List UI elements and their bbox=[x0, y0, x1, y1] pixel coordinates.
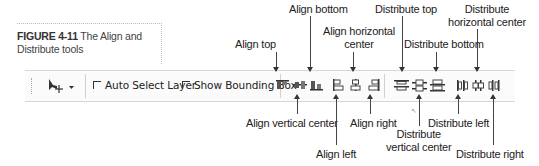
callout-line bbox=[493, 98, 494, 145]
arrow-down-icon bbox=[307, 67, 313, 72]
options-toolbar: Auto Select Layer Show Bounding Box bbox=[25, 70, 515, 102]
align-top-icon[interactable] bbox=[275, 78, 291, 92]
callout-line bbox=[477, 29, 478, 69]
callout-align-horizontal-center: Align horizontal center bbox=[323, 25, 395, 51]
figure-caption: FIGURE 4-11 The Align and Distribute too… bbox=[17, 30, 161, 56]
distribute-vertical-center-icon[interactable] bbox=[411, 78, 428, 92]
distribute-right-icon[interactable] bbox=[487, 78, 501, 92]
move-tool-button[interactable] bbox=[41, 77, 77, 95]
align-bottom-icon[interactable] bbox=[309, 78, 325, 92]
callout-line bbox=[336, 98, 337, 145]
callout-line bbox=[458, 98, 459, 114]
arrow-down-icon bbox=[350, 67, 356, 72]
distribute-top-icon[interactable] bbox=[393, 78, 410, 92]
callout-distribute-bottom: Distribute bottom bbox=[404, 38, 484, 51]
auto-select-layer-checkbox[interactable]: Auto Select Layer bbox=[93, 79, 196, 91]
cursor-icon: ↖ bbox=[411, 107, 417, 115]
chevron-down-icon bbox=[69, 86, 74, 89]
checkbox-box[interactable] bbox=[182, 81, 190, 89]
callout-align-bottom: Align bottom bbox=[289, 3, 348, 16]
callout-line bbox=[370, 98, 371, 114]
figure-caption-box: FIGURE 4-11 The Align and Distribute too… bbox=[17, 23, 162, 64]
toolbar-grip-handle[interactable] bbox=[31, 78, 34, 94]
callout-distribute-top: Distribute top bbox=[375, 3, 437, 16]
distribute-horizontal-center-icon[interactable] bbox=[471, 78, 485, 92]
align-horizontal-center-icon[interactable] bbox=[349, 78, 363, 92]
toolbar-separator bbox=[85, 74, 86, 98]
callout-text-line: Distribute bbox=[448, 3, 526, 16]
align-left-icon[interactable] bbox=[331, 78, 345, 92]
align-vertical-center-icon[interactable] bbox=[292, 78, 308, 92]
callout-distribute-right: Distribute right bbox=[456, 148, 524, 161]
arrow-down-icon bbox=[433, 67, 439, 72]
callout-line bbox=[310, 16, 311, 69]
distribute-left-icon[interactable] bbox=[455, 78, 469, 92]
callout-line bbox=[419, 98, 420, 126]
checkbox-box[interactable] bbox=[93, 81, 101, 89]
move-tool-icon bbox=[41, 77, 77, 95]
figure-label: FIGURE 4-11 bbox=[17, 30, 78, 42]
arrow-down-icon bbox=[273, 67, 279, 72]
callout-text-line: center bbox=[323, 38, 395, 51]
callout-align-vertical-center: Align vertical center bbox=[246, 117, 338, 130]
arrow-down-icon bbox=[399, 67, 405, 72]
align-right-icon[interactable] bbox=[367, 78, 381, 92]
toolbar-separator bbox=[384, 74, 385, 98]
callout-text-line: Align horizontal bbox=[323, 25, 395, 38]
callout-distribute-vertical-center: Distribute vertical center bbox=[386, 128, 451, 154]
callout-align-top: Align top bbox=[235, 38, 276, 51]
arrow-down-icon bbox=[474, 67, 480, 72]
callout-text-line: vertical center bbox=[386, 141, 451, 154]
callout-line bbox=[402, 16, 403, 69]
callout-align-left: Align left bbox=[316, 148, 356, 161]
callout-distribute-horizontal-center: Distribute horizontal center bbox=[448, 3, 526, 29]
callout-line bbox=[297, 98, 298, 114]
distribute-bottom-icon[interactable] bbox=[429, 78, 446, 92]
callout-text-line: horizontal center bbox=[448, 16, 526, 29]
callout-distribute-left: Distribute left bbox=[428, 117, 489, 130]
